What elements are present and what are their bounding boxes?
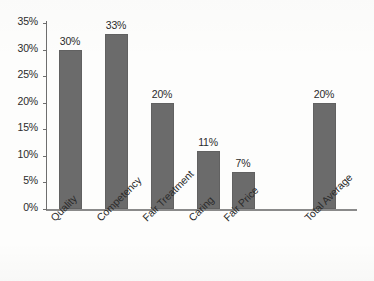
y-axis-tick-label: 10%: [18, 148, 38, 160]
y-axis-tick-label: 25%: [18, 68, 38, 80]
bar-value-label: 30%: [50, 35, 91, 47]
y-axis-tick-label: 30%: [18, 42, 38, 54]
bar-value-label: 20%: [304, 88, 345, 100]
bar-chart: 0%5%10%15%20%25%30%35% 30%33%20%11%7%20%…: [0, 0, 374, 281]
y-axis-tick-label: 5%: [23, 174, 38, 186]
y-axis-tick-label: 35%: [18, 15, 38, 27]
bar-value-label: 7%: [223, 157, 264, 169]
y-axis-tick-label: 20%: [18, 95, 38, 107]
bars-layer: 30%33%20%11%7%20%: [47, 23, 357, 209]
bar-value-label: 11%: [188, 136, 229, 148]
bar-value-label: 33%: [96, 19, 137, 31]
category-labels-layer: QualityCompetencyFair TreatmentCaringFai…: [0, 209, 374, 281]
bar: [59, 50, 82, 209]
y-axis-tick-label: 15%: [18, 121, 38, 133]
bar: [105, 34, 128, 209]
bar-value-label: 20%: [142, 88, 183, 100]
